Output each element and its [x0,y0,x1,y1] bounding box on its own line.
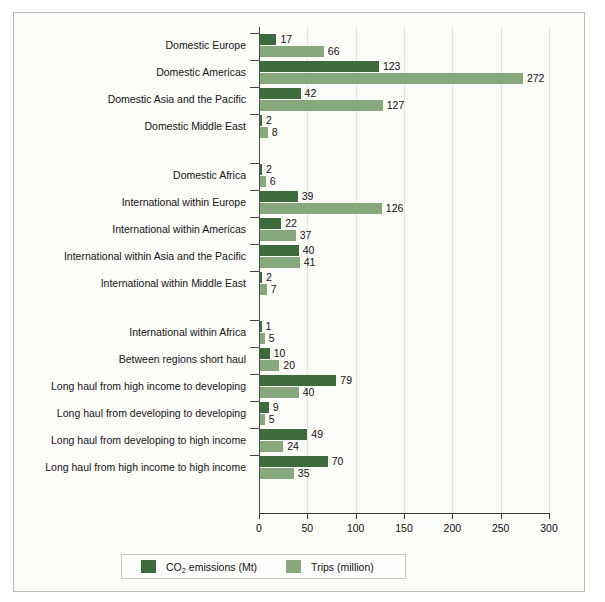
x-tick-label: 100 [347,522,365,535]
category-tick [250,347,259,348]
category-label: Domestic Asia and the Pacific [108,93,246,106]
category-tick [250,114,259,115]
category-label: Between regions short haul [119,353,246,366]
x-tick-label: 250 [492,522,510,535]
bar-co2: 2 [260,115,262,126]
bar-value-label: 35 [298,466,310,480]
legend-entry-co2: CO2 emissions (Mt) [141,560,257,573]
bar-value-label: 5 [269,331,275,345]
category-tick [250,190,259,191]
category-tick [250,163,259,164]
category-label: Domestic Africa [173,169,246,182]
category-row: International within Middle East27 [259,271,549,298]
bar-co2: 2 [260,164,262,175]
bar-value-label: 79 [340,373,352,387]
x-tick-label: 50 [301,522,313,535]
category-tick [250,244,259,245]
category-row: Long haul from developing to high income… [259,428,549,455]
gridline-300 [549,27,550,513]
bar-value-label: 22 [285,216,297,230]
bar-trips: 272 [260,73,523,84]
bar-trips: 6 [260,176,266,187]
x-tick-label: 0 [256,522,262,535]
bar-co2: 70 [260,456,328,467]
bar-value-label: 17 [280,32,292,46]
category-label: International within Asia and the Pacifi… [64,250,246,263]
category-label: International within Middle East [101,277,246,290]
category-row: Domestic Africa26 [259,163,549,190]
x-tick-mark [501,513,502,519]
category-row: Between regions short haul1020 [259,347,549,374]
bar-trips: 7 [260,284,267,295]
bar-co2: 49 [260,429,307,440]
category-label: International within Europe [122,196,246,209]
bar-value-label: 66 [328,44,340,58]
category-label: International within Africa [129,326,246,339]
x-tick-mark [307,513,308,519]
category-label: Long haul from developing to developing [57,407,246,420]
category-tick [250,374,259,375]
plot-area: Domestic Europe1766Domestic Americas1232… [259,27,549,513]
bar-value-label: 123 [383,59,401,73]
x-tick-mark [549,513,550,519]
category-tick [250,217,259,218]
bar-value-label: 24 [287,439,299,453]
category-row: Domestic Americas123272 [259,60,549,87]
bar-value-label: 5 [269,412,275,426]
bar-value-label: 40 [303,385,315,399]
bar-trips: 24 [260,441,283,452]
category-tick [250,33,259,34]
bar-co2: 10 [260,348,270,359]
category-tick [250,320,259,321]
bar-value-label: 42 [305,86,317,100]
bar-value-label: 272 [527,71,545,85]
axis-baseline [259,27,260,513]
category-row: Long haul from high income to developing… [259,374,549,401]
bar-value-label: 49 [311,427,323,441]
category-tick [250,401,259,402]
bar-trips: 127 [260,100,383,111]
category-tick [250,428,259,429]
x-tick-label: 300 [540,522,558,535]
bar-trips: 41 [260,257,300,268]
category-tick [250,271,259,272]
bar-trips: 35 [260,468,294,479]
x-tick-mark [452,513,453,519]
x-tick-mark [404,513,405,519]
bar-value-label: 7 [271,282,277,296]
category-label: International within Americas [112,223,246,236]
bar-trips: 40 [260,387,299,398]
bar-trips: 20 [260,360,279,371]
bar-co2: 39 [260,191,298,202]
chart-legend: CO2 emissions (Mt) Trips (million) [121,554,406,579]
category-tick [250,87,259,88]
bar-value-label: 41 [304,255,316,269]
category-tick [250,60,259,61]
bar-value-label: 20 [283,358,295,372]
x-tick-mark [356,513,357,519]
category-label: Long haul from high income to developing [51,380,246,393]
legend-swatch-co2-icon [141,560,156,573]
bar-trips: 126 [260,203,382,214]
bar-co2: 123 [260,61,379,72]
x-tick-label: 150 [395,522,413,535]
category-row: International within Americas2237 [259,217,549,244]
category-label: Domestic Middle East [144,120,246,133]
bar-co2: 40 [260,245,299,256]
bar-co2: 42 [260,88,301,99]
bar-value-label: 127 [387,98,405,112]
bar-co2: 79 [260,375,336,386]
category-row: Domestic Europe1766 [259,33,549,60]
bar-trips: 5 [260,414,265,425]
category-row: Long haul from developing to developing9… [259,401,549,428]
bar-value-label: 8 [272,125,278,139]
bar-trips: 66 [260,46,324,57]
x-tick-mark [259,513,260,519]
legend-label-co2: CO2 emissions (Mt) [166,561,257,573]
category-label: Domestic Europe [165,39,246,52]
bar-co2: 9 [260,402,269,413]
bar-value-label: 37 [300,228,312,242]
legend-label-trips: Trips (million) [311,561,374,573]
bar-trips: 8 [260,127,268,138]
x-tick-label: 200 [444,522,462,535]
